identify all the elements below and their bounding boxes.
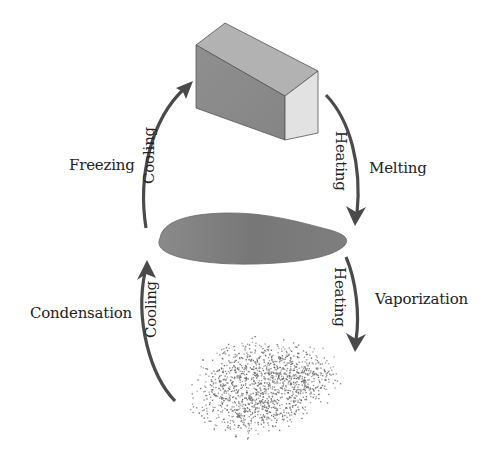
label-freezing: Freezing: [69, 156, 135, 174]
solid-block-icon: [196, 23, 318, 140]
diagram-graphics: [0, 0, 496, 456]
liquid-puddle-icon: [159, 213, 347, 264]
label-freezing-cooling: Cooling: [140, 128, 158, 184]
label-condensation: Condensation: [30, 304, 132, 322]
gas-particles-icon: [190, 336, 341, 440]
label-vaporization-heating: Heating: [331, 267, 349, 325]
label-condensation-cooling: Cooling: [142, 282, 160, 338]
label-melting: Melting: [369, 159, 427, 177]
phase-change-diagram: Freezing Cooling Melting Heating Condens…: [0, 0, 496, 456]
label-melting-heating: Heating: [332, 131, 350, 189]
label-vaporization: Vaporization: [375, 290, 468, 308]
arrowhead-condensation-icon: [137, 260, 156, 280]
